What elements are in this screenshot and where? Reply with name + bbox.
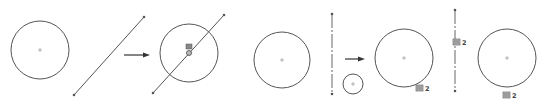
endpoint-dot bbox=[331, 93, 334, 96]
panel-left-after bbox=[152, 14, 226, 95]
endpoint-dot bbox=[223, 14, 226, 17]
relation-index-label: 2 bbox=[462, 39, 467, 47]
sketch-relations-diagram: 222 bbox=[0, 0, 547, 104]
endpoint-dot bbox=[143, 16, 146, 19]
panel-right-after bbox=[375, 9, 536, 93]
panel-left-before bbox=[11, 16, 145, 97]
endpoint-dot bbox=[454, 90, 457, 93]
coincident-point-icon bbox=[187, 51, 192, 56]
diagram-shapes bbox=[11, 9, 536, 97]
equal-relation-icon bbox=[503, 92, 510, 98]
equal-relation-badge: 2 bbox=[416, 85, 430, 93]
relation-index-label: 2 bbox=[425, 85, 430, 93]
equal-relation-icon bbox=[416, 85, 423, 91]
equal-relation-icon bbox=[453, 39, 460, 45]
endpoint-dot bbox=[454, 9, 457, 12]
endpoint-dot bbox=[73, 94, 76, 97]
relation-index-label: 2 bbox=[512, 92, 517, 100]
endpoint-dot bbox=[331, 13, 334, 16]
sketch-line bbox=[74, 17, 144, 95]
coincident-relation-icon bbox=[186, 44, 192, 49]
equal-relation-badge: 2 bbox=[453, 39, 467, 47]
equal-relation-badge: 2 bbox=[503, 92, 517, 100]
arrowhead-icon bbox=[143, 53, 150, 58]
panel-right-before bbox=[254, 13, 363, 96]
endpoint-dot bbox=[152, 92, 155, 95]
arrowhead-icon bbox=[358, 57, 365, 62]
